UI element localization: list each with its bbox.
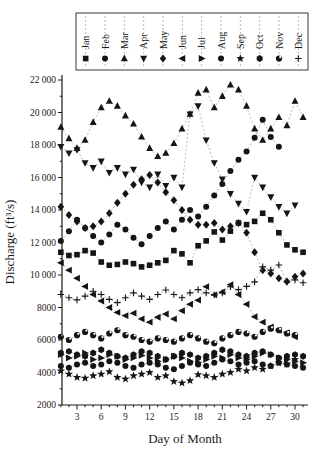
legend-label: Dec bbox=[293, 32, 304, 49]
aug-marker-icon bbox=[218, 56, 224, 62]
legend-label: Aug bbox=[216, 32, 227, 49]
y-axis-title: Discharge (ft³/s) bbox=[2, 200, 17, 285]
legend-label: May bbox=[158, 31, 169, 49]
legend-label: Jun bbox=[177, 35, 188, 49]
x-tick-label: 24 bbox=[242, 412, 252, 422]
y-tick-label: 4000 bbox=[37, 368, 56, 378]
y-tick-label: 16 000 bbox=[30, 173, 56, 183]
legend-label: Mar bbox=[119, 32, 130, 49]
x-tick-label: 12 bbox=[145, 412, 155, 422]
y-tick-label: 6000 bbox=[37, 335, 56, 345]
x-tick-label: 15 bbox=[169, 412, 179, 422]
legend: JanFebMarAprMayJunJulAugSepOctNovDec bbox=[76, 13, 308, 70]
y-tick-label: 2000 bbox=[37, 400, 56, 410]
y-tick-label: 10 000 bbox=[30, 270, 56, 280]
legend-label: Sep bbox=[235, 34, 246, 49]
y-tick-label: 18 000 bbox=[30, 140, 56, 150]
legend-label: Jan bbox=[80, 36, 91, 49]
discharge-chart-figure: 200040006000800010 00012 00014 00016 000… bbox=[0, 0, 313, 461]
nov-marker-icon bbox=[276, 55, 282, 61]
x-tick-labels: 36912151821242730 bbox=[61, 405, 303, 422]
y-tick-label: 22 000 bbox=[30, 75, 56, 85]
legend-label: Feb bbox=[100, 34, 111, 49]
x-tick-label: 21 bbox=[218, 412, 228, 422]
legend-label: Jul bbox=[196, 37, 207, 49]
data-series bbox=[57, 81, 307, 387]
legend-label: Apr bbox=[138, 33, 149, 49]
x-axis-title: Day of Month bbox=[148, 431, 222, 446]
x-tick-label: 6 bbox=[99, 412, 104, 422]
legend-label: Oct bbox=[254, 34, 265, 49]
series-nov bbox=[58, 326, 298, 347]
y-tick-label: 8000 bbox=[37, 303, 56, 313]
legend-label: Nov bbox=[274, 32, 285, 49]
y-tick-label: 12 000 bbox=[30, 238, 56, 248]
y-tick-labels: 200040006000800010 00012 00014 00016 000… bbox=[30, 75, 62, 410]
feb-marker-icon bbox=[102, 56, 108, 62]
x-tick-label: 18 bbox=[193, 412, 203, 422]
x-tick-label: 3 bbox=[75, 412, 80, 422]
series-mar bbox=[57, 81, 306, 159]
x-tick-label: 9 bbox=[123, 412, 128, 422]
chart-canvas: 200040006000800010 00012 00014 00016 000… bbox=[0, 0, 313, 461]
y-tick-label: 20 000 bbox=[30, 108, 56, 118]
y-tick-label: 14 000 bbox=[30, 205, 56, 215]
x-tick-label: 30 bbox=[290, 412, 300, 422]
x-tick-label: 27 bbox=[266, 412, 276, 422]
series-dec bbox=[58, 262, 307, 306]
jan-marker-icon bbox=[83, 56, 89, 62]
